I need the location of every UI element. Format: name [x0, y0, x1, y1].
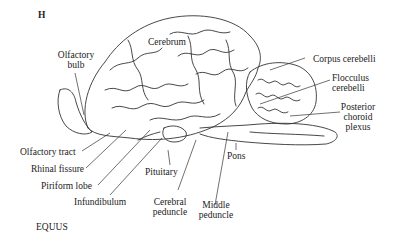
label-middle-peduncle: Middle peduncle — [194, 200, 238, 220]
label-mp-line1: Middle — [194, 200, 238, 210]
label-olfactory-tract: Olfactory tract — [20, 147, 76, 157]
label-pons: Pons — [227, 151, 245, 161]
label-pcp-line2: choroid — [336, 112, 380, 122]
label-pituitary: Pituitary — [145, 167, 178, 177]
label-pcp-line1: Posterior — [336, 102, 380, 112]
label-cerebrum: Cerebrum — [148, 37, 186, 47]
label-flocculus-line2: cerebelli — [332, 83, 369, 93]
brainstem-outline — [200, 123, 337, 145]
label-piriform-lobe: Piriform lobe — [41, 181, 92, 191]
species-label: EQUUS — [36, 222, 68, 232]
label-flocculus-cerebelli: Flocculus cerebelli — [332, 73, 369, 93]
pituitary-outline — [163, 126, 187, 142]
label-corpus-cerebelli: Corpus cerebelli — [313, 54, 376, 64]
label-infundibulum: Infundibulum — [74, 197, 126, 207]
label-cp-line2: peduncle — [148, 207, 192, 217]
cerebrum-outline — [85, 16, 261, 140]
label-mp-line2: peduncle — [194, 210, 238, 220]
label-cp-line1: Cerebral — [148, 197, 192, 207]
leader-lines — [75, 58, 340, 205]
label-olfactory-bulb: Olfactory bulb — [54, 50, 98, 70]
panel-letter: H — [38, 10, 45, 20]
label-flocculus-line1: Flocculus — [332, 73, 369, 83]
label-olfactory-bulb-line2: bulb — [54, 60, 98, 70]
label-rhinal-fissure: Rhinal fissure — [31, 164, 84, 174]
label-cerebral-peduncle: Cerebral peduncle — [148, 197, 192, 217]
label-pcp-line3: plexus — [336, 122, 380, 132]
label-posterior-choroid-plexus: Posterior choroid plexus — [336, 102, 380, 132]
label-olfactory-bulb-line1: Olfactory — [54, 50, 98, 60]
